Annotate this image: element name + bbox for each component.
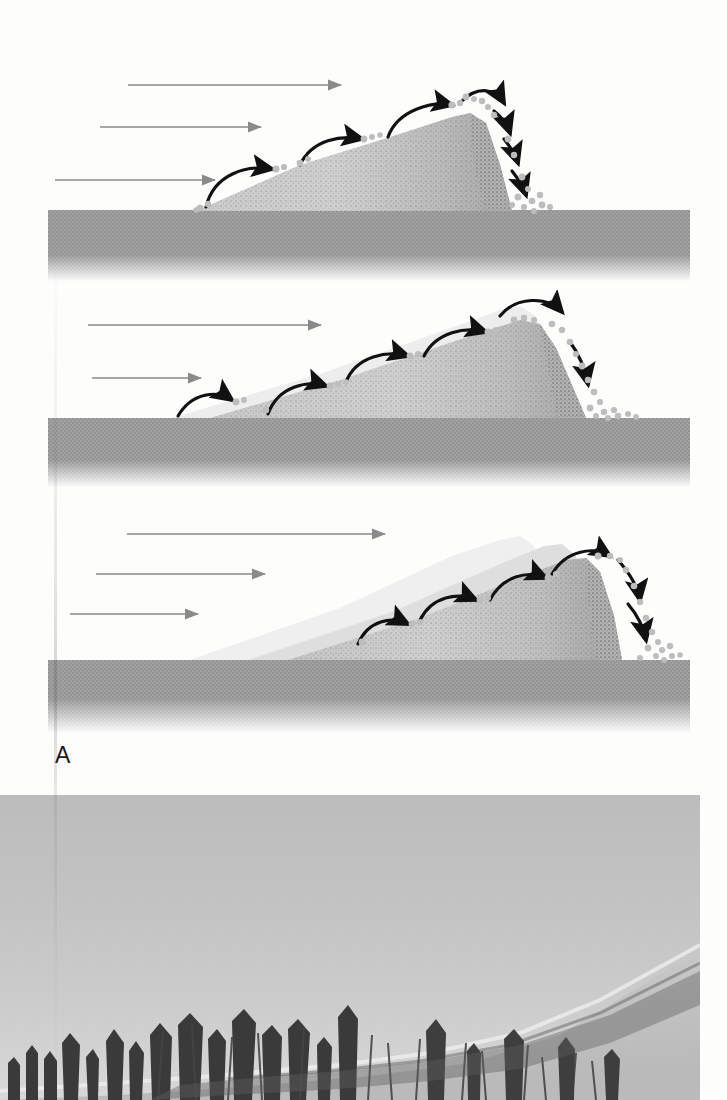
ground-band [48, 418, 690, 488]
figure-dune-migration: A [0, 0, 727, 1100]
wind-arrows [70, 534, 385, 614]
panel-dune-stage-3 [0, 512, 727, 782]
photograph-dune-over-forest [0, 795, 700, 1100]
ground-band [48, 660, 690, 734]
panel-2-graphic [0, 290, 727, 510]
wind-arrows [88, 325, 321, 378]
wind-arrows [55, 85, 341, 180]
dune-body [210, 320, 586, 418]
panel-3-graphic [0, 512, 727, 782]
panel-1-graphic [0, 55, 727, 290]
slipface-arrows [570, 342, 588, 384]
ground-band [48, 210, 690, 282]
figure-part-label: A [55, 744, 70, 767]
panel-dune-stage-2 [0, 290, 727, 510]
diagram-panels: A [0, 0, 727, 782]
photo-graphic [0, 795, 700, 1100]
panel-dune-stage-1 [0, 55, 727, 290]
